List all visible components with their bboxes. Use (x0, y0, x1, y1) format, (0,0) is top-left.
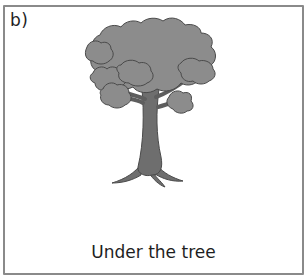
tree-icon (5, 7, 302, 273)
picture-card: b) (3, 5, 304, 275)
caption: Under the tree (5, 242, 302, 262)
